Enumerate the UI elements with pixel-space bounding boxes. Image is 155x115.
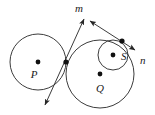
label-s: S	[121, 50, 127, 62]
tangency-point-pq	[63, 59, 68, 64]
label-line-n: n	[140, 54, 146, 66]
label-p: P	[30, 68, 38, 80]
geometry-figure: P Q S m n	[0, 0, 155, 115]
label-q: Q	[96, 82, 104, 94]
tangency-point-qs	[119, 38, 124, 43]
line-n	[90, 21, 135, 50]
label-line-m: m	[75, 2, 83, 14]
center-dot-p	[36, 60, 41, 65]
center-dot-q	[98, 72, 103, 77]
geometry-canvas: P Q S m n	[0, 0, 155, 115]
center-dot-s	[111, 53, 116, 58]
